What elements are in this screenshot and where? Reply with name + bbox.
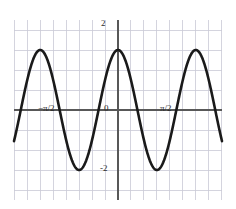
x-tick-label-origin: 0 [104, 104, 109, 113]
x-tick-label-negative-pi-over-2: −π/2 [38, 104, 55, 113]
plot-canvas [0, 0, 236, 209]
y-tick-label-negative-2: -2 [100, 164, 108, 173]
y-tick-label-2: 2 [101, 19, 106, 28]
graph-figure: 2 -2 −π/2 0 π/2 [0, 0, 236, 209]
x-tick-label-pi-over-2: π/2 [160, 104, 172, 113]
